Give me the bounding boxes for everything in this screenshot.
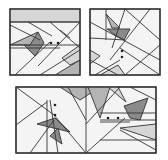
marker-dot	[54, 104, 57, 107]
marker-dot	[107, 117, 110, 120]
marker-dot	[121, 50, 124, 53]
marker-dot	[57, 42, 60, 45]
marker-dot	[54, 114, 57, 117]
shaded-shape	[10, 9, 80, 22]
panel-top-left	[10, 9, 80, 75]
marker-dot	[121, 56, 124, 59]
marker-dot	[50, 42, 53, 45]
diagram-canvas	[0, 0, 168, 160]
panel-bottom	[16, 87, 156, 153]
marker-dot	[117, 117, 120, 120]
panel-top-right	[90, 9, 160, 75]
panel-background	[90, 9, 160, 75]
